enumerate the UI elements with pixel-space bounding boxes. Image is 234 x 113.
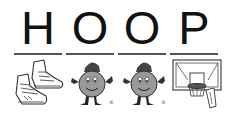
mascot-icon: ® xyxy=(68,58,118,110)
letter-1: H xyxy=(14,4,62,51)
letter-4: P xyxy=(170,4,218,51)
underline-3 xyxy=(118,53,166,55)
letter-3: O xyxy=(118,4,166,51)
letter-2: O xyxy=(66,4,114,51)
underline-4 xyxy=(170,53,218,55)
registered-mark: ® xyxy=(161,99,166,105)
registered-mark: ® xyxy=(109,99,114,105)
underline-2 xyxy=(66,53,114,55)
basketball-hoop-icon xyxy=(170,58,226,110)
underline-1 xyxy=(14,53,62,55)
mascot-icon: ® xyxy=(120,58,170,110)
sneakers-icon xyxy=(12,58,62,110)
